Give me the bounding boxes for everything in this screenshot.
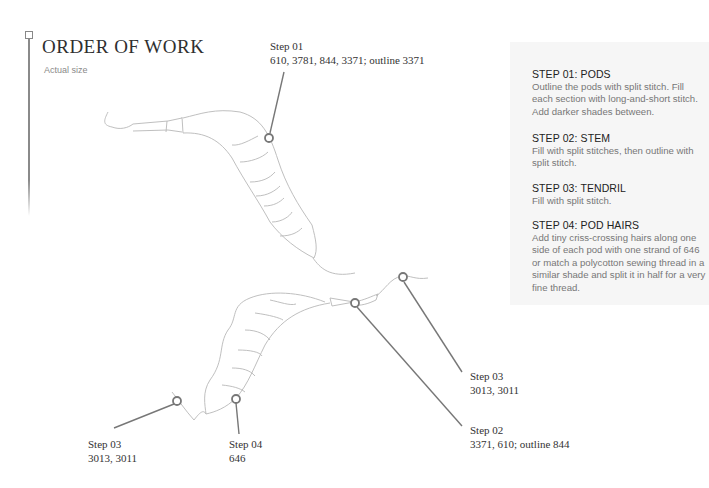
marker-step01 xyxy=(265,134,273,142)
leader-step02 xyxy=(357,307,462,426)
pod-drawing-upper xyxy=(105,111,355,275)
pod-drawing-lower xyxy=(172,276,428,420)
callout-title: Step 04 xyxy=(229,437,262,451)
marker-step02 xyxy=(351,299,359,307)
marker-step03-upper xyxy=(399,273,407,281)
callout-title: Step 01 xyxy=(270,39,425,53)
embroidery-diagram xyxy=(0,0,709,488)
marker-step04 xyxy=(232,395,240,403)
callout-step01: Step 01 610, 3781, 844, 3371; outline 33… xyxy=(270,39,425,67)
marker-step03-lower xyxy=(173,397,181,405)
callout-title: Step 03 xyxy=(88,437,137,451)
callout-step04: Step 04 646 xyxy=(229,437,262,465)
callout-threads: 3013, 3011 xyxy=(88,451,137,465)
leader-step03-lower xyxy=(114,404,174,428)
leader-step03-upper xyxy=(404,282,462,372)
callout-step03-upper: Step 03 3013, 3011 xyxy=(470,369,519,397)
callout-threads: 646 xyxy=(229,451,262,465)
callout-threads: 3371, 610; outline 844 xyxy=(470,437,570,451)
callout-step02: Step 02 3371, 610; outline 844 xyxy=(470,423,570,451)
callout-threads: 3013, 3011 xyxy=(470,383,519,397)
callout-step03-lower: Step 03 3013, 3011 xyxy=(88,437,137,465)
leader-step01 xyxy=(270,72,284,133)
callout-title: Step 02 xyxy=(470,423,570,437)
callout-markers xyxy=(173,134,407,405)
leader-step04 xyxy=(236,403,239,434)
callout-threads: 610, 3781, 844, 3371; outline 3371 xyxy=(270,53,425,67)
callout-title: Step 03 xyxy=(470,369,519,383)
